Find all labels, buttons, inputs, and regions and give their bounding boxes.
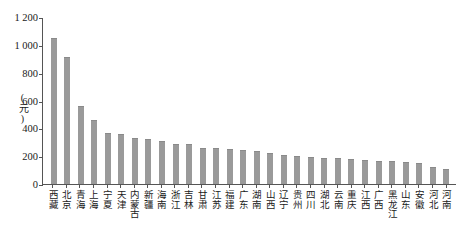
- x-tick-slot: [358, 185, 372, 189]
- x-label-slot: 内蒙古: [127, 190, 141, 242]
- x-axis-category-label: 山东: [400, 190, 410, 209]
- bar: [376, 161, 382, 184]
- y-axis-tick-label: 800: [22, 69, 38, 79]
- bar: [267, 153, 273, 184]
- y-axis-tick-mark: [39, 74, 43, 75]
- x-axis-category-label: 辽宁: [278, 190, 288, 209]
- x-axis-category-label: 江西: [360, 190, 370, 209]
- x-axis-tick-mark: [378, 185, 379, 188]
- bar-slot: [169, 18, 183, 184]
- bar: [389, 161, 395, 184]
- x-label-slot: 山东: [399, 190, 413, 242]
- bar-slot: [385, 18, 399, 184]
- bar: [403, 162, 409, 184]
- x-tick-slot: [372, 185, 386, 189]
- y-axis-tick-mark: [39, 46, 43, 47]
- x-axis-tick-mark: [364, 185, 365, 188]
- x-axis-category-label: 河北: [428, 190, 438, 209]
- bar-slot: [209, 18, 223, 184]
- bar: [443, 169, 449, 184]
- bar: [254, 151, 260, 184]
- x-axis-category-label: 北京: [61, 190, 71, 209]
- bar-slot: [128, 18, 142, 184]
- x-axis-category-label: 重庆: [346, 190, 356, 209]
- x-axis-category-label: 贵州: [292, 190, 302, 209]
- x-axis-category-labels: 西藏北京青海上海宁夏天津内蒙古新疆海南浙江吉林甘肃江苏福建广东湖南山西辽宁贵州四…: [42, 190, 456, 242]
- x-axis-tick-mark: [391, 185, 392, 188]
- x-axis-category-label: 湖北: [319, 190, 329, 209]
- bar-slot: [291, 18, 305, 184]
- x-label-slot: 海南: [155, 190, 169, 242]
- bar-slot: [223, 18, 237, 184]
- x-tick-slot: [87, 185, 101, 189]
- bar-slot: [88, 18, 102, 184]
- x-axis-tick-mark: [324, 185, 325, 188]
- bar: [145, 139, 151, 184]
- bar-slot: [115, 18, 129, 184]
- bar-slot: [142, 18, 156, 184]
- x-label-slot: 新疆: [141, 190, 155, 242]
- bar: [173, 144, 179, 184]
- x-tick-slot: [60, 185, 74, 189]
- x-label-slot: 贵州: [290, 190, 304, 242]
- x-axis-category-label: 上海: [88, 190, 98, 209]
- bar: [200, 148, 206, 184]
- bar: [416, 163, 422, 184]
- x-axis-category-label: 河南: [441, 190, 451, 209]
- x-axis-category-label: 甘肃: [197, 190, 207, 209]
- x-axis-tick-mark: [446, 185, 447, 188]
- x-axis-category-label: 宁夏: [102, 190, 112, 209]
- x-tick-slot: [249, 185, 263, 189]
- x-label-slot: 青海: [73, 190, 87, 242]
- x-axis-tick-mark: [310, 185, 311, 188]
- x-tick-slot: [114, 185, 128, 189]
- bar: [159, 141, 165, 184]
- x-axis-tick-mark: [147, 185, 148, 188]
- x-axis-category-label: 福建: [224, 190, 234, 209]
- x-label-slot: 西藏: [46, 190, 60, 242]
- bar: [213, 148, 219, 184]
- x-axis-tick-mark: [351, 185, 352, 188]
- bar: [227, 149, 233, 184]
- x-axis-tick-mark: [174, 185, 175, 188]
- plot-area: [42, 18, 456, 185]
- x-label-slot: 云南: [331, 190, 345, 242]
- y-axis-tick-label: 200: [22, 152, 38, 162]
- x-label-slot: 河北: [426, 190, 440, 242]
- x-label-slot: 北京: [60, 190, 74, 242]
- x-label-slot: 安徽: [412, 190, 426, 242]
- x-tick-slot: [385, 185, 399, 189]
- bar: [430, 167, 436, 184]
- bar: [240, 150, 246, 184]
- x-axis-category-label: 广东: [238, 190, 248, 209]
- bar-slot: [318, 18, 332, 184]
- x-tick-slot: [304, 185, 318, 189]
- x-axis-category-label: 广西: [373, 190, 383, 209]
- x-axis-tick-mark: [93, 185, 94, 188]
- x-tick-slot: [399, 185, 413, 189]
- bar-slot: [101, 18, 115, 184]
- x-label-slot: 宁夏: [100, 190, 114, 242]
- x-axis-category-label: 天津: [116, 190, 126, 209]
- x-label-slot: 河南: [439, 190, 453, 242]
- bar: [294, 156, 300, 184]
- bar-slot: [358, 18, 372, 184]
- x-label-slot: 甘肃: [195, 190, 209, 242]
- x-axis-tick-mark: [337, 185, 338, 188]
- x-axis-category-label: 海南: [156, 190, 166, 209]
- bar-slot: [304, 18, 318, 184]
- bar: [118, 134, 124, 184]
- bar: [362, 160, 368, 184]
- y-axis-tick-label: 400: [22, 124, 38, 134]
- x-tick-slot: [317, 185, 331, 189]
- y-axis-tick-labels: 02004006008001 0001 200: [0, 0, 42, 242]
- x-label-slot: 重庆: [344, 190, 358, 242]
- x-axis-tick-mark: [215, 185, 216, 188]
- x-axis-tick-mark: [229, 185, 230, 188]
- bar-slot: [182, 18, 196, 184]
- bar: [186, 144, 192, 184]
- bar-slot: [372, 18, 386, 184]
- x-tick-slot: [236, 185, 250, 189]
- y-axis-tick-label: 1 200: [14, 13, 38, 23]
- x-tick-slot: [331, 185, 345, 189]
